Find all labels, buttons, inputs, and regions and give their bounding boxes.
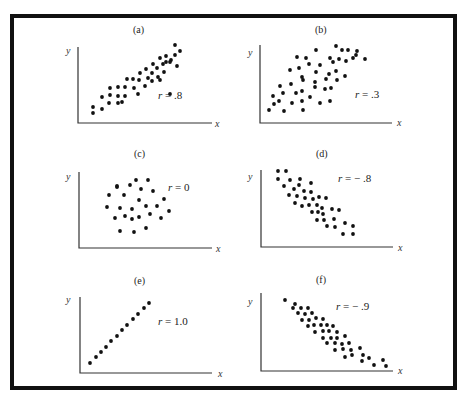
- data-point: [313, 80, 317, 84]
- data-point: [125, 323, 129, 327]
- data-point: [122, 193, 126, 197]
- data-point: [294, 91, 298, 95]
- data-point: [100, 107, 104, 111]
- data-point: [108, 93, 112, 97]
- panel-e-y-label: y: [65, 294, 71, 305]
- data-point: [291, 306, 295, 310]
- data-point: [108, 86, 112, 90]
- data-point: [137, 198, 141, 202]
- data-point: [123, 214, 127, 218]
- data-point: [300, 204, 304, 208]
- panel-f-axes: [261, 293, 393, 371]
- data-point: [107, 101, 111, 105]
- data-point: [334, 69, 338, 73]
- data-point: [309, 181, 313, 185]
- data-point: [321, 212, 325, 216]
- panel-d-r-annotation: r = − .8: [338, 172, 372, 184]
- data-point: [91, 111, 95, 115]
- data-point: [142, 306, 146, 310]
- data-point: [278, 84, 282, 88]
- data-point: [146, 178, 150, 182]
- data-point: [123, 85, 127, 89]
- panel-c-r-annotation: r = 0: [168, 181, 190, 193]
- data-point: [162, 197, 166, 201]
- data-point: [150, 71, 154, 75]
- data-point: [297, 66, 301, 70]
- data-point: [123, 94, 127, 98]
- data-point: [298, 177, 302, 181]
- data-point: [343, 355, 347, 359]
- data-point: [120, 328, 124, 332]
- data-point: [381, 358, 385, 362]
- data-point: [132, 230, 136, 234]
- data-point: [329, 86, 333, 90]
- data-point: [178, 49, 182, 53]
- panel-d-y-label: y: [247, 171, 253, 182]
- panel-e-points: [88, 301, 151, 365]
- panel-a-x-label: x: [214, 118, 220, 129]
- data-point: [144, 67, 148, 71]
- data-point: [311, 197, 315, 201]
- data-point: [351, 232, 355, 236]
- data-point: [331, 324, 335, 328]
- data-point: [324, 77, 328, 81]
- data-point: [346, 48, 350, 52]
- data-point: [173, 53, 177, 57]
- data-point: [155, 204, 159, 208]
- data-point: [313, 85, 317, 89]
- data-point: [333, 225, 337, 229]
- data-point: [300, 75, 304, 79]
- data-point: [148, 212, 152, 216]
- data-point: [315, 203, 319, 207]
- data-point: [309, 190, 313, 194]
- panel-c-x-label: x: [215, 243, 221, 254]
- data-point: [327, 72, 331, 76]
- data-point: [321, 329, 325, 333]
- panel-e-axes: [80, 297, 212, 373]
- panel-c: (c) y x r = 0: [65, 148, 221, 254]
- data-point: [168, 60, 172, 64]
- data-point: [131, 77, 135, 81]
- data-point: [355, 49, 359, 53]
- panel-b-label: (b): [315, 24, 327, 36]
- data-point: [137, 78, 141, 82]
- data-point: [306, 324, 310, 328]
- data-point: [276, 177, 280, 181]
- panel-d-label: (d): [316, 148, 328, 160]
- data-point: [104, 345, 108, 349]
- data-point: [289, 82, 293, 86]
- data-point: [134, 178, 138, 182]
- data-point: [314, 316, 318, 320]
- data-point: [168, 92, 172, 96]
- data-point: [343, 221, 347, 225]
- data-point: [347, 341, 351, 345]
- data-point: [91, 105, 95, 109]
- data-point: [118, 206, 122, 210]
- panel-a-y-label: y: [65, 45, 71, 56]
- data-point: [301, 108, 305, 112]
- data-point: [144, 204, 148, 208]
- data-point: [136, 92, 140, 96]
- data-point: [155, 66, 159, 70]
- data-point: [303, 312, 307, 316]
- panel-f-y-label: y: [247, 296, 253, 307]
- data-point: [340, 48, 344, 52]
- data-point: [267, 108, 271, 112]
- data-point: [167, 209, 171, 213]
- data-point: [349, 348, 353, 352]
- data-point: [115, 184, 119, 188]
- data-point: [313, 330, 317, 334]
- data-point: [276, 169, 280, 173]
- data-point: [340, 342, 344, 346]
- data-point: [120, 100, 124, 104]
- data-point: [292, 187, 296, 191]
- data-point: [367, 356, 371, 360]
- data-point: [327, 329, 331, 333]
- panel-f-r-annotation: r = − .9: [336, 300, 370, 312]
- data-point: [281, 91, 285, 95]
- data-point: [296, 311, 300, 315]
- data-point: [297, 183, 301, 187]
- panel-a-label: (a): [133, 24, 144, 36]
- data-point: [105, 205, 109, 209]
- panel-a-points: [91, 43, 182, 115]
